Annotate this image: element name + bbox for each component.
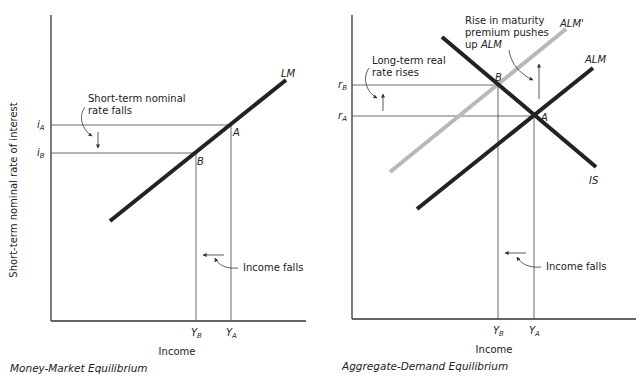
lm-label: LM [281,68,296,79]
alm-label: ALM [584,54,606,65]
point-b-label: B [495,72,502,83]
income-annotation: Income falls [243,262,303,273]
point-b-label: B [197,156,204,167]
shift-annotation-line3: up ALM [465,39,502,50]
y-axis-label: Short-term nominal rate of interest [8,102,19,278]
income-annotation-pointer [215,258,238,268]
tick-rb: rB [338,79,347,92]
rate-annotation-line2: rate rises [372,67,419,78]
income-annotation: Income falls [546,261,606,272]
point-a-label: A [232,127,240,138]
diagram-canvas: LM A B iA iB YB YA Income Short-term nom… [0,0,640,382]
x-axis-label: Income [476,344,513,355]
panel-caption: Aggregate-Demand Equilibrium [341,360,508,372]
shift-annotation-line2: premium pushes [465,27,549,38]
income-annotation-pointer [517,257,541,267]
rate-annotation-line2: rate falls [88,105,132,116]
x-axis-label: Income [159,346,196,357]
rate-annotation-line1: Long-term real [372,55,446,66]
aggregate-demand-panel: ALM' ALM IS A B rB rA YB YA Income Long-… [338,15,636,372]
point-a-label: A [540,112,548,123]
alm-prime-curve [390,29,566,172]
tick-ia: iA [37,119,45,132]
tick-yb: YB [493,325,504,338]
panel-caption: Money-Market Equilibrium [10,362,148,374]
tick-ya: YA [226,327,237,340]
tick-ra: rA [338,110,347,123]
tick-yb: YB [191,327,202,340]
is-curve [442,37,596,167]
tick-ib: iB [37,147,45,160]
rate-annotation-line1: Short-term nominal [88,93,186,104]
money-market-panel: LM A B iA iB YB YA Income Short-term nom… [8,15,306,374]
is-label: IS [589,175,599,186]
shift-annotation-line1: Rise in maturity [465,15,545,26]
tick-ya: YA [529,325,540,338]
alm-prime-label: ALM' [559,18,584,29]
